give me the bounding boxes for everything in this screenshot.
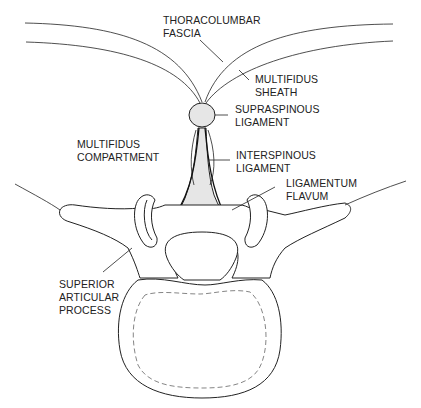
label-thoracolumbar-fascia: THORACOLUMBAR FASCIA bbox=[163, 14, 264, 39]
thoracolumbar-fascia-lines bbox=[25, 23, 393, 103]
lumbar-vertebra-diagram: THORACOLUMBAR FASCIA MULTIFIDUS SHEATH S… bbox=[0, 0, 421, 408]
label-multifidus-compartment: MULTIFIDUS COMPARTMENT bbox=[77, 138, 160, 163]
vertebral-body-shape bbox=[118, 279, 281, 398]
label-supraspinous-ligament: SUPRASPINOUS LIGAMENT bbox=[235, 103, 323, 128]
label-multifidus-sheath: MULTIFIDUS SHEATH bbox=[255, 73, 321, 98]
label-interspinous-ligament: INTERSPINOUS LIGAMENT bbox=[236, 149, 319, 174]
label-ligamentum-flavum: LIGAMENTUM FLAVUM bbox=[286, 177, 360, 202]
supraspinous-ligament-shape bbox=[189, 103, 215, 127]
label-superior-articular-process: SUPERIOR ARTICULAR PROCESS bbox=[59, 278, 122, 316]
